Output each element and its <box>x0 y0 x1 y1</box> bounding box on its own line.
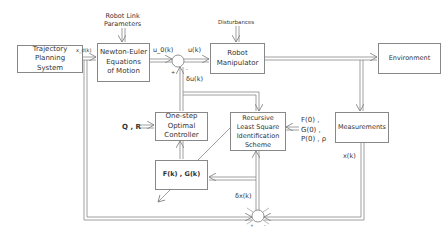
measurements-block: Measurements <box>335 112 389 143</box>
newton-euler-block: Newton-Euler Equations of Motion <box>97 43 150 82</box>
summing-junction-control <box>172 55 184 67</box>
robot-manipulator-block: Robot Manipulator <box>210 43 265 74</box>
delta-u-label: δu(k) <box>186 75 203 83</box>
trajectory-planning-system-block: Trajectory Planning System <box>17 45 83 73</box>
optimal-controller-block: One-step Optimal Controller <box>155 112 208 141</box>
minus-sign-2: - <box>264 222 266 230</box>
x-label: x(k) <box>343 152 356 160</box>
minus-sign: - <box>186 65 188 73</box>
environment-block: Environment <box>378 43 441 74</box>
plus-sign-2: + <box>250 222 254 230</box>
plus-sign: + <box>171 68 175 76</box>
rls-identification-block: Recursive Least Square Identification Sc… <box>230 112 286 151</box>
robot-link-parameters-label: Robot Link Parameters <box>104 12 141 28</box>
qr-label: Q , R <box>122 123 141 131</box>
delta-x-label: δx(k) <box>235 192 252 200</box>
xd-label: x_d(k) <box>76 46 91 54</box>
fg-matrices-block: F(k) , G(k) <box>155 160 208 190</box>
disturbances-label: Disturbances <box>218 18 254 26</box>
u-label: u(k) <box>188 46 201 54</box>
summing-junction-state <box>252 210 264 222</box>
u0-label: u_0(k) <box>153 46 173 54</box>
initial-conditions-label: F(0) , G(0) , P(0) , ρ <box>301 116 326 145</box>
